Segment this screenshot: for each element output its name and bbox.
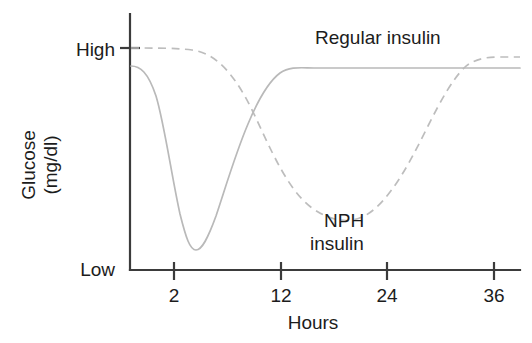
regular-insulin-label: Regular insulin [315, 27, 441, 48]
y-axis-high-label: High [76, 39, 115, 60]
nph-insulin-curve [131, 48, 520, 221]
x-tick-label-24: 24 [376, 285, 398, 306]
y-axis-title-line1: Glucose [18, 130, 39, 200]
y-axis-title-line2: (mg/dl) [40, 135, 61, 194]
x-tick-label-2: 2 [169, 285, 180, 306]
nph-insulin-label-line1: NPH [324, 210, 364, 231]
x-tick-label-36: 36 [483, 285, 504, 306]
glucose-insulin-line-chart: High Low Glucose (mg/dl) 2 12 24 36 Hour… [0, 0, 532, 343]
chart-figure: High Low Glucose (mg/dl) 2 12 24 36 Hour… [0, 0, 532, 343]
x-tick-label-12: 12 [270, 285, 291, 306]
y-axis-low-label: Low [80, 259, 115, 280]
x-axis-title: Hours [288, 312, 339, 333]
nph-insulin-label-line2: insulin [310, 233, 364, 254]
